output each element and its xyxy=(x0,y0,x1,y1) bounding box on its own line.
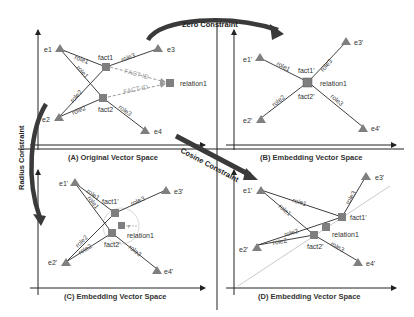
label-e2: e2' xyxy=(243,117,252,124)
label-fact2: fact2' xyxy=(298,93,315,100)
label-fact2: fact2' xyxy=(104,241,121,248)
label-e4: e4' xyxy=(366,260,375,267)
fact-id-label: FACT-ID xyxy=(124,67,150,80)
arrowhead-icon xyxy=(270,24,284,40)
entity-e4-b xyxy=(358,124,368,132)
label-fact1: fact1' xyxy=(298,67,315,74)
label-e2: e2 xyxy=(42,116,50,123)
zero-constraint-label: Zero Constraint xyxy=(182,20,238,29)
diagram: e1 e3 e2 e4 fact1 fact2 relation1 role1 … xyxy=(0,0,414,317)
fact2-node-a xyxy=(99,94,107,102)
label-e4: e4' xyxy=(371,125,380,132)
role-label: role3 xyxy=(120,51,136,63)
role-label: role3 xyxy=(344,189,357,205)
role-label: role2 xyxy=(71,104,87,116)
label-e1: e1' xyxy=(59,180,68,187)
fact-merged-node-b xyxy=(303,78,312,87)
label-fact1: fact1' xyxy=(102,198,119,205)
fact1-node-d xyxy=(338,213,346,221)
entity-e3-b xyxy=(341,37,351,45)
fact-id-label: FACT-ID xyxy=(123,83,149,95)
role-label: role3 xyxy=(330,240,346,253)
panel-c: r e1' e3' e2' e4' fact1' fact2' relation… xyxy=(30,170,205,301)
entity-e3-a xyxy=(153,44,163,52)
label-relation1: relation1 xyxy=(180,80,207,87)
label-fact1: fact1' xyxy=(350,214,367,221)
panel-a: e1 e3 e2 e4 fact1 fact2 relation1 role1 … xyxy=(30,30,207,162)
panel-b: e1' e3' e2' e4' fact1' fact2' relation1 … xyxy=(226,30,396,162)
role-label: role3 xyxy=(319,57,334,73)
relation-node-a xyxy=(166,79,174,87)
label-e1: e1' xyxy=(243,187,252,194)
role-label: role2 xyxy=(272,237,288,246)
label-relation1: relation1 xyxy=(127,232,154,239)
label-e4: e4' xyxy=(164,268,173,275)
label-fact2: fact2' xyxy=(307,243,324,250)
caption-a: (A) Original Vector Space xyxy=(68,153,158,162)
caption-d: (D) Embedding Vector Space xyxy=(258,292,361,301)
entity-e2-a xyxy=(54,113,64,121)
role-label: role3 xyxy=(329,92,345,107)
label-fact1: fact1 xyxy=(98,54,113,61)
fact2-node-d xyxy=(310,231,318,239)
label-e3: e3' xyxy=(375,174,384,181)
entity-e2-b xyxy=(256,115,266,123)
role-label: role3 xyxy=(130,194,146,206)
label-e1: e1 xyxy=(44,46,52,53)
label-e1: e1' xyxy=(243,56,252,63)
entity-e3-c xyxy=(161,186,171,194)
caption-c: (C) Embedding Vector Space xyxy=(64,292,167,301)
entity-e1-b xyxy=(255,53,265,61)
relation-node-c xyxy=(118,222,125,229)
arrowhead-icon xyxy=(33,214,46,226)
label-e3: e3' xyxy=(174,188,183,195)
label-relation1: relation1 xyxy=(332,231,359,238)
caption-b: (B) Embedding Vector Space xyxy=(260,153,363,162)
diagram-canvas: e1 e3 e2 e4 fact1 fact2 relation1 role1 … xyxy=(0,0,414,317)
fact1-node-c xyxy=(111,209,119,217)
entity-e3-d xyxy=(361,172,371,180)
role-label: role1 xyxy=(74,53,90,65)
entity-e1-d xyxy=(256,186,266,194)
role-label: role1 xyxy=(75,64,90,80)
role-label: role1 xyxy=(276,60,292,73)
panel-d: e1' e3' e2' e4' fact1' fact2' relation1 … xyxy=(226,170,396,301)
radius-constraint-label: Radius Constraint xyxy=(17,125,26,190)
label-fact2: fact2 xyxy=(98,106,113,113)
relation-node-d xyxy=(322,223,330,231)
label-e3: e3' xyxy=(354,39,363,46)
label-relation1: relation1 xyxy=(320,80,347,87)
role-label: role2 xyxy=(69,88,84,104)
entity-e1-a xyxy=(55,44,65,52)
label-e3: e3 xyxy=(167,46,175,53)
role-label: role1 xyxy=(292,196,308,207)
entity-e1-c xyxy=(70,178,80,186)
entity-e4-c xyxy=(152,266,162,274)
label-e2: e2' xyxy=(48,259,57,266)
label-e2: e2' xyxy=(239,246,248,253)
role-label: role2 xyxy=(270,93,286,108)
zero-constraint: Zero Constraint xyxy=(148,20,284,40)
label-e4: e4 xyxy=(154,128,162,135)
fact1-node-a xyxy=(102,63,110,71)
fact2-node-c xyxy=(108,229,116,237)
